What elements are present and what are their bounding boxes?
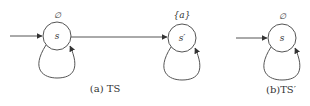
state-s-prime-label: {a} xyxy=(174,10,191,20)
diagram-a: s ∅ s′ {a} (a) TS xyxy=(10,10,200,94)
state-s-label: ∅ xyxy=(54,11,62,20)
state-s-b-label: ∅ xyxy=(279,12,287,21)
state-s-b-name: s xyxy=(280,33,285,43)
caption-a: (a) TS xyxy=(90,83,121,94)
diagram-b: s ∅ (b)TS′ xyxy=(236,12,300,95)
transition-system-diagrams: s ∅ s′ {a} (a) TS s ∅ (b)TS′ xyxy=(0,0,310,106)
caption-b: (b)TS′ xyxy=(266,84,297,95)
state-s-name: s xyxy=(55,31,60,41)
state-s-prime-name: s′ xyxy=(179,33,186,43)
